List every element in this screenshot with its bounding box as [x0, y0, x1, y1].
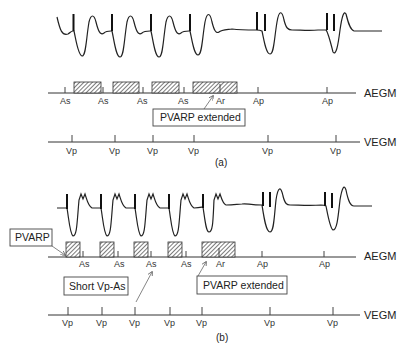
ventricular-pace-spike — [269, 192, 271, 207]
annotation-text: PVARP — [15, 231, 50, 243]
pvarp-box — [100, 242, 114, 257]
vegm-event-label: Vp — [330, 146, 341, 156]
vegm-event-label: Vp — [188, 146, 199, 156]
annotation-text: Short Vp-As — [69, 280, 126, 292]
aegm-timeline-b: As As As As Ar Ap Ap AEGM — [48, 242, 396, 269]
spike-marker — [73, 14, 75, 31]
vegm-event-label: Vp — [327, 318, 338, 328]
vegm-timeline-a: Vp Vp Vp Vp Vp Vp VEGM — [48, 135, 396, 156]
pvarp-box — [152, 82, 179, 93]
aegm-event-label: As — [178, 96, 189, 106]
atrial-pace-spike — [262, 192, 264, 206]
ecg-waveform-b — [57, 187, 372, 236]
pvarp-annotation: PVARP — [10, 229, 65, 255]
vegm-event-label: Vp — [164, 318, 175, 328]
pacemaker-timing-diagram: As As As As Ar Ap Ap AEGM PVARP extended… — [0, 0, 404, 348]
aegm-event-label: Ap — [253, 96, 264, 106]
aegm-event-label: Ar — [216, 259, 225, 269]
aegm-event-label: Ap — [319, 259, 330, 269]
spike-marker — [66, 194, 68, 209]
ventricular-pace-spike — [331, 193, 333, 208]
ventricular-pace-spike — [333, 14, 335, 31]
aegm-event-label: As — [114, 259, 125, 269]
vegm-event-label: Vp — [147, 146, 158, 156]
vegm-event-label: Vp — [262, 146, 273, 156]
spike-marker — [111, 14, 113, 31]
spike-marker — [150, 14, 152, 31]
spike-marker — [100, 194, 102, 209]
pvarp-box — [113, 82, 139, 93]
aegm-channel-label: AEGM — [364, 250, 396, 262]
atrial-pace-spike — [324, 192, 326, 206]
aegm-event-label: As — [79, 259, 90, 269]
aegm-event-label: As — [98, 96, 109, 106]
annotation-text: PVARP extended — [203, 279, 284, 291]
annotation-text: PVARP extended — [160, 111, 241, 123]
vegm-event-label: Vp — [264, 318, 275, 328]
vegm-event-label: Vp — [129, 318, 140, 328]
vegm-channel-label: VEGM — [364, 136, 396, 148]
pvarp-extended-annotation-a: PVARP extended — [153, 96, 245, 126]
pvarp-extended-annotation-b: PVARP extended — [197, 262, 287, 294]
atrial-pace-spike — [326, 13, 328, 30]
vegm-timeline-b: Vp Vp Vp Vp Vp Vp Vp VEGM — [48, 307, 396, 328]
aegm-event-label: As — [137, 96, 148, 106]
atrial-pace-spike — [256, 12, 258, 30]
vegm-event-label: Vp — [109, 146, 120, 156]
spike-marker — [134, 194, 136, 209]
short-vp-as-annotation: Short Vp-As — [64, 272, 152, 302]
pvarp-box — [66, 242, 80, 257]
pvarp-box — [168, 242, 182, 257]
pvarp-extended-box — [193, 82, 237, 93]
aegm-channel-label: AEGM — [364, 87, 396, 99]
aegm-timeline-a: As As As As Ar Ap Ap AEGM — [48, 82, 396, 106]
aegm-event-label: Ap — [322, 96, 333, 106]
spike-marker — [189, 14, 191, 31]
panel-caption: (a) — [215, 157, 227, 168]
panel-b: PVARP As As As As Ar Ap Ap AEGM — [10, 187, 396, 343]
spike-marker — [168, 194, 170, 209]
pvarp-box — [74, 82, 101, 93]
vegm-channel-label: VEGM — [364, 309, 396, 321]
aegm-event-label: Ap — [257, 259, 268, 269]
aegm-event-label: As — [146, 259, 157, 269]
aegm-event-label: Ar — [216, 96, 225, 106]
vegm-event-label: Vp — [196, 318, 207, 328]
pvarp-box — [134, 242, 148, 257]
aegm-event-label: As — [181, 259, 192, 269]
panel-a: As As As As Ar Ap Ap AEGM PVARP extended… — [48, 12, 396, 168]
panel-caption: (b) — [216, 332, 228, 343]
ventricular-pace-spike — [264, 14, 266, 31]
vegm-event-label: Vp — [96, 318, 107, 328]
spike-marker — [202, 194, 204, 208]
vegm-event-label: Vp — [62, 318, 73, 328]
aegm-event-label: As — [60, 96, 71, 106]
vegm-event-label: Vp — [66, 146, 77, 156]
ecg-waveform-a — [57, 12, 382, 57]
